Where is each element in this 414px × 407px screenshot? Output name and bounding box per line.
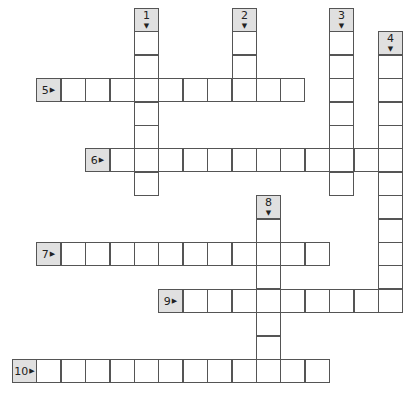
answer-cell[interactable] <box>280 359 305 383</box>
answer-cell[interactable] <box>378 78 403 102</box>
clue-cell-2-down[interactable]: 2▼ <box>232 8 257 32</box>
answer-cell[interactable] <box>134 78 159 102</box>
answer-cell[interactable] <box>329 148 354 172</box>
answer-cell[interactable] <box>207 289 232 313</box>
answer-cell[interactable] <box>183 289 208 313</box>
answer-cell[interactable] <box>183 148 208 172</box>
answer-cell[interactable] <box>256 289 281 313</box>
answer-cell[interactable] <box>305 289 330 313</box>
answer-cell[interactable] <box>85 242 110 266</box>
answer-cell[interactable] <box>134 55 159 79</box>
answer-cell[interactable] <box>232 31 257 55</box>
answer-cell[interactable] <box>110 359 135 383</box>
answer-cell[interactable] <box>378 242 403 266</box>
answer-cell[interactable] <box>207 148 232 172</box>
clue-number: 4 <box>387 34 394 44</box>
answer-cell[interactable] <box>329 289 354 313</box>
clue-cell-3-down[interactable]: 3▼ <box>329 8 354 32</box>
clue-cell-1-down[interactable]: 1▼ <box>134 8 159 32</box>
answer-cell[interactable] <box>329 78 354 102</box>
answer-cell[interactable] <box>256 336 281 360</box>
answer-cell[interactable] <box>207 78 232 102</box>
answer-cell[interactable] <box>305 148 330 172</box>
answer-cell[interactable] <box>110 148 135 172</box>
answer-cell[interactable] <box>232 55 257 79</box>
answer-cell[interactable] <box>158 148 183 172</box>
answer-cell[interactable] <box>378 289 403 313</box>
arrow-right-icon: ▶ <box>29 367 34 375</box>
answer-cell[interactable] <box>61 359 86 383</box>
answer-cell[interactable] <box>158 359 183 383</box>
answer-cell[interactable] <box>183 242 208 266</box>
answer-cell[interactable] <box>134 359 159 383</box>
answer-cell[interactable] <box>256 78 281 102</box>
clue-cell-4-down[interactable]: 4▼ <box>378 31 403 55</box>
answer-cell[interactable] <box>232 242 257 266</box>
answer-cell[interactable] <box>378 265 403 289</box>
answer-cell[interactable] <box>134 31 159 55</box>
answer-cell[interactable] <box>378 172 403 196</box>
crossword-grid: 1▼2▼3▼4▼5▶6▶7▶8▼9▶10▶ <box>0 0 414 407</box>
arrow-right-icon: ▶ <box>172 297 177 305</box>
answer-cell[interactable] <box>134 125 159 149</box>
clue-cell-9-across[interactable]: 9▶ <box>158 289 183 313</box>
answer-cell[interactable] <box>280 242 305 266</box>
answer-cell[interactable] <box>329 55 354 79</box>
answer-cell[interactable] <box>158 78 183 102</box>
clue-number: 7 <box>42 248 49 261</box>
clue-number: 9 <box>164 295 171 308</box>
answer-cell[interactable] <box>85 359 110 383</box>
answer-cell[interactable] <box>183 78 208 102</box>
answer-cell[interactable] <box>232 78 257 102</box>
clue-number: 3 <box>338 11 345 21</box>
answer-cell[interactable] <box>378 195 403 219</box>
answer-cell[interactable] <box>183 359 208 383</box>
answer-cell[interactable] <box>232 359 257 383</box>
answer-cell[interactable] <box>256 265 281 289</box>
clue-cell-10-across[interactable]: 10▶ <box>12 359 37 383</box>
answer-cell[interactable] <box>329 172 354 196</box>
answer-cell[interactable] <box>305 242 330 266</box>
clue-cell-6-across[interactable]: 6▶ <box>85 148 110 172</box>
answer-cell[interactable] <box>378 148 403 172</box>
answer-cell[interactable] <box>256 312 281 336</box>
answer-cell[interactable] <box>85 78 110 102</box>
clue-cell-8-down[interactable]: 8▼ <box>256 195 281 219</box>
answer-cell[interactable] <box>207 359 232 383</box>
clue-cell-5-across[interactable]: 5▶ <box>36 78 61 102</box>
answer-cell[interactable] <box>280 289 305 313</box>
answer-cell[interactable] <box>329 102 354 126</box>
answer-cell[interactable] <box>134 148 159 172</box>
answer-cell[interactable] <box>61 78 86 102</box>
answer-cell[interactable] <box>280 78 305 102</box>
answer-cell[interactable] <box>158 242 183 266</box>
clue-cell-7-across[interactable]: 7▶ <box>36 242 61 266</box>
answer-cell[interactable] <box>134 172 159 196</box>
answer-cell[interactable] <box>134 242 159 266</box>
answer-cell[interactable] <box>256 148 281 172</box>
answer-cell[interactable] <box>110 242 135 266</box>
answer-cell[interactable] <box>329 31 354 55</box>
answer-cell[interactable] <box>256 359 281 383</box>
answer-cell[interactable] <box>61 242 86 266</box>
answer-cell[interactable] <box>256 242 281 266</box>
answer-cell[interactable] <box>354 289 379 313</box>
answer-cell[interactable] <box>329 125 354 149</box>
answer-cell[interactable] <box>134 102 159 126</box>
answer-cell[interactable] <box>36 359 61 383</box>
answer-cell[interactable] <box>232 289 257 313</box>
answer-cell[interactable] <box>207 242 232 266</box>
arrow-right-icon: ▶ <box>99 156 104 164</box>
answer-cell[interactable] <box>378 55 403 79</box>
answer-cell[interactable] <box>280 148 305 172</box>
answer-cell[interactable] <box>305 359 330 383</box>
answer-cell[interactable] <box>256 219 281 243</box>
answer-cell[interactable] <box>378 125 403 149</box>
answer-cell[interactable] <box>354 148 379 172</box>
clue-number: 10 <box>14 365 28 378</box>
answer-cell[interactable] <box>378 102 403 126</box>
answer-cell[interactable] <box>232 148 257 172</box>
answer-cell[interactable] <box>110 78 135 102</box>
answer-cell[interactable] <box>378 219 403 243</box>
clue-number: 1 <box>143 11 150 21</box>
